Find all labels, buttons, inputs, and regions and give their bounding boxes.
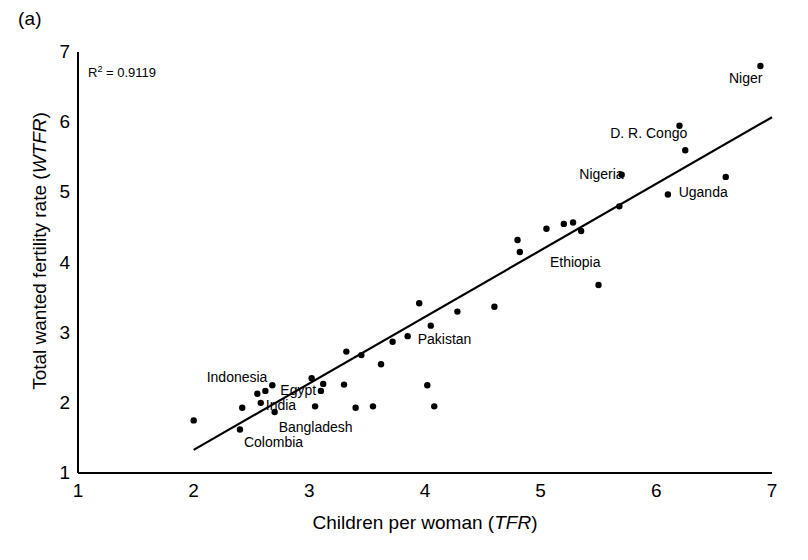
data-point [578, 228, 584, 234]
data-point [308, 375, 314, 381]
data-point [269, 382, 275, 388]
data-point [517, 249, 523, 255]
data-point [318, 388, 324, 394]
data-point [723, 174, 729, 180]
data-point-label: India [266, 398, 296, 413]
data-point [358, 352, 364, 358]
data-point-label: Egypt [280, 383, 316, 398]
data-point [595, 282, 601, 288]
data-point-label: Niger [729, 71, 762, 86]
data-point [543, 226, 549, 232]
data-point [237, 426, 243, 432]
data-point [343, 348, 349, 354]
data-point [262, 388, 268, 394]
plot-area [0, 0, 808, 560]
data-point [428, 322, 434, 328]
data-point [570, 219, 576, 225]
data-point [312, 403, 318, 409]
data-point [404, 333, 410, 339]
data-points [190, 63, 763, 433]
data-point [389, 339, 395, 345]
data-point [190, 417, 196, 423]
data-point [682, 147, 688, 153]
data-point [424, 382, 430, 388]
data-point [616, 203, 622, 209]
data-point-label: D. R. Congo [610, 126, 687, 141]
data-point [341, 381, 347, 387]
data-point [757, 63, 763, 69]
data-point [320, 381, 326, 387]
data-point-label: Ethiopia [550, 255, 601, 270]
data-point [378, 361, 384, 367]
axis-lines [78, 52, 772, 473]
data-point [431, 403, 437, 409]
data-point [514, 237, 520, 243]
data-point-label: Indonesia [207, 370, 268, 385]
data-point [352, 405, 358, 411]
data-point-label: Nigeria [579, 167, 623, 182]
data-point-label: Colombia [244, 435, 303, 450]
data-point [416, 300, 422, 306]
data-point [370, 403, 376, 409]
data-point [454, 308, 460, 314]
data-point [665, 191, 671, 197]
data-point [491, 304, 497, 310]
data-point [258, 400, 264, 406]
data-point-label: Bangladesh [279, 420, 353, 435]
data-point [561, 221, 567, 227]
data-point-label: Pakistan [418, 332, 472, 347]
scatter-figure: (a) R2 = 0.9119 Total wanted fertility r… [0, 0, 808, 560]
data-point-label: Uganda [679, 185, 728, 200]
data-point [239, 405, 245, 411]
data-point [254, 391, 260, 397]
